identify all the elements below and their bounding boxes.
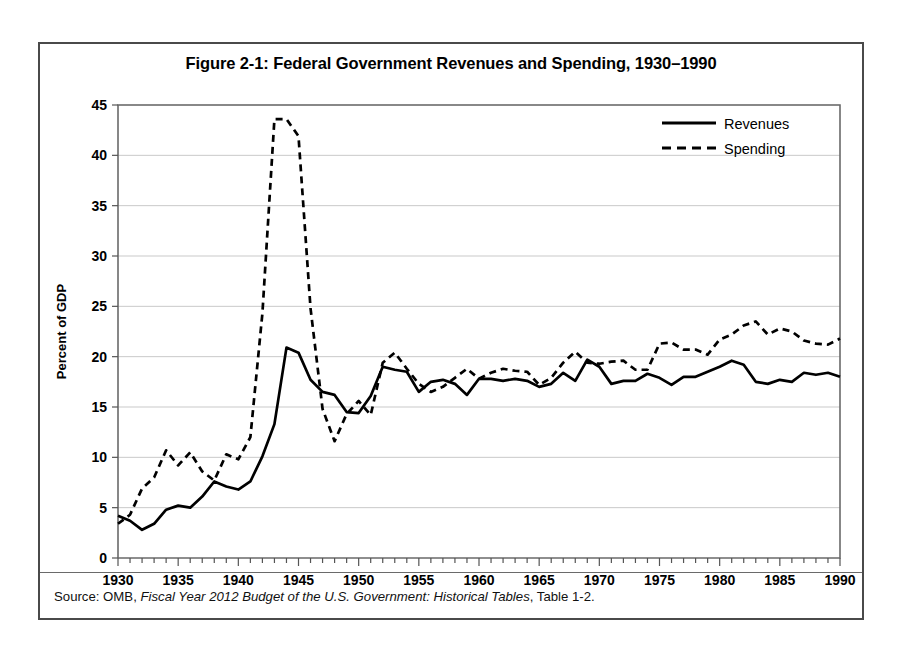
svg-text:15: 15 — [91, 399, 107, 415]
data-series — [118, 119, 840, 530]
source-title-italic: Fiscal Year 2012 Budget of the U.S. Gove… — [140, 589, 529, 604]
svg-text:1970: 1970 — [584, 572, 615, 588]
y-axis-title-text: Percent of GDP — [54, 283, 69, 379]
svg-text:1955: 1955 — [403, 572, 434, 588]
svg-text:30: 30 — [91, 248, 107, 264]
svg-text:1935: 1935 — [163, 572, 194, 588]
plot-frame — [118, 105, 840, 558]
svg-text:1940: 1940 — [223, 572, 254, 588]
svg-text:20: 20 — [91, 349, 107, 365]
svg-text:40: 40 — [91, 147, 107, 163]
revenues-spending-line-chart: 051015202530354045 193019351940194519501… — [40, 44, 866, 622]
svg-text:1960: 1960 — [463, 572, 494, 588]
svg-text:25: 25 — [91, 298, 107, 314]
source-divider — [40, 572, 862, 573]
svg-text:5: 5 — [99, 500, 107, 516]
series-line-revenues — [118, 348, 840, 530]
source-note: Source: OMB, Fiscal Year 2012 Budget of … — [54, 589, 595, 604]
y-axis-title: Percent of GDP — [54, 283, 69, 379]
svg-text:1990: 1990 — [824, 572, 855, 588]
svg-text:0: 0 — [99, 550, 107, 566]
svg-text:10: 10 — [91, 449, 107, 465]
chart-legend: RevenuesSpending — [662, 116, 789, 157]
x-axis-ticks: 1930193519401945195019551960196519701975… — [102, 558, 855, 588]
figure-frame: Figure 2-1: Federal Government Revenues … — [38, 42, 864, 620]
legend-label-spending: Spending — [724, 141, 785, 157]
svg-text:1980: 1980 — [704, 572, 735, 588]
svg-text:1985: 1985 — [764, 572, 795, 588]
source-prefix: Source: OMB, — [54, 589, 140, 604]
source-suffix: , Table 1-2. — [530, 589, 595, 604]
svg-text:35: 35 — [91, 198, 107, 214]
figure-page: Figure 2-1: Federal Government Revenues … — [0, 0, 903, 660]
svg-text:45: 45 — [91, 97, 107, 113]
gridlines — [118, 105, 840, 508]
y-axis-ticks: 051015202530354045 — [91, 97, 118, 566]
svg-text:1950: 1950 — [343, 572, 374, 588]
svg-text:1975: 1975 — [644, 572, 675, 588]
svg-text:1945: 1945 — [283, 572, 314, 588]
legend-label-revenues: Revenues — [724, 116, 789, 132]
svg-text:1930: 1930 — [102, 572, 133, 588]
series-line-spending — [118, 119, 840, 524]
svg-text:1965: 1965 — [524, 572, 555, 588]
